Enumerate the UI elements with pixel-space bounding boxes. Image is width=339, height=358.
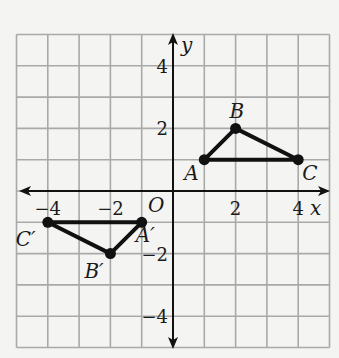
vertex-label: C′ <box>16 227 36 251</box>
x-tick-label: −2 <box>97 198 124 219</box>
x-tick-label: 4 <box>292 198 303 219</box>
triangle-abc: ABC <box>182 99 317 184</box>
y-axis-label: y <box>180 33 193 57</box>
x-axis-label: x <box>310 196 321 220</box>
triangle-abc-prime: A′B′C′ <box>16 217 155 283</box>
triangle-outline <box>204 128 298 159</box>
y-tick-label: 4 <box>157 56 168 77</box>
vertex-point <box>199 154 210 165</box>
vertex-label: A′ <box>134 223 155 247</box>
origin-label: O <box>148 193 164 217</box>
vertex-label: B′ <box>83 259 104 283</box>
vertex-point <box>230 123 241 134</box>
vertex-label: C <box>302 161 317 185</box>
vertex-label: A <box>182 161 198 185</box>
y-tick-label: −4 <box>141 306 168 327</box>
y-tick-label: 2 <box>157 118 168 139</box>
vertex-point <box>105 248 116 259</box>
coordinate-plane: −4−22442−2−4 y x O ABCA′B′C′ <box>0 0 339 358</box>
vertex-label: B <box>229 99 245 123</box>
x-tick-label: 2 <box>230 198 241 219</box>
axes <box>19 33 330 349</box>
x-tick-label: −4 <box>35 198 62 219</box>
vertex-point <box>42 217 53 228</box>
triangle-outline <box>48 222 142 253</box>
